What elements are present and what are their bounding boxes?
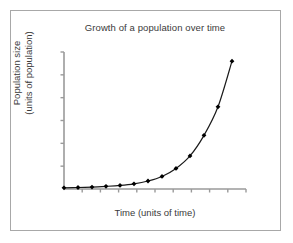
- data-point-marker: [118, 183, 123, 188]
- data-point-marker: [202, 133, 207, 138]
- data-point-marker: [146, 179, 151, 184]
- data-point-marker: [230, 59, 235, 64]
- data-point-marker: [104, 184, 109, 189]
- data-point-marker: [216, 104, 221, 109]
- axes-group: [61, 52, 247, 193]
- data-point-marker: [132, 181, 137, 186]
- data-series-line: [64, 61, 232, 188]
- data-series-markers: [62, 59, 235, 191]
- plot-area: [10, 10, 281, 231]
- chart-figure: Growth of a population over time Populat…: [0, 0, 293, 243]
- data-point-marker: [160, 174, 165, 179]
